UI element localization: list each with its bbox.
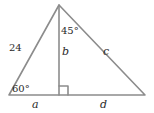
outer-triangle [9,5,145,95]
right-side-label: c [103,45,109,58]
triangle-diagram: 24 b 45° c 60° a d [0,0,154,113]
bottom-left-angle-label: 60° [12,83,30,94]
altitude-label: b [62,45,69,58]
apex-angle-label: 45° [61,25,79,36]
right-angle-marker [59,86,68,95]
base-right-label: d [100,98,107,111]
left-side-label: 24 [9,42,22,53]
base-left-label: a [32,98,39,111]
